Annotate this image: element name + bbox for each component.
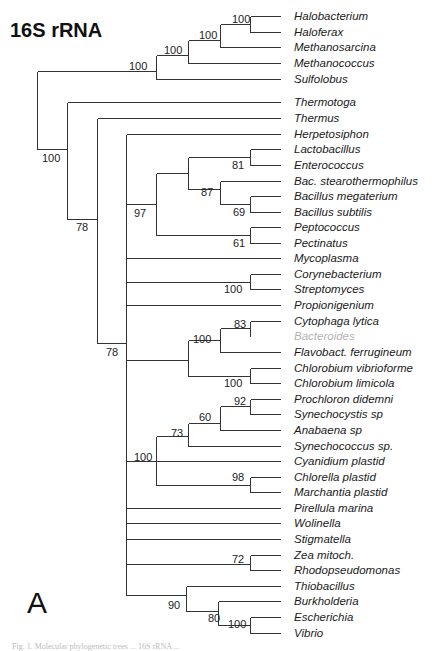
tip-label: Stigmatella — [294, 533, 351, 545]
bootstrap-value: 90 — [168, 599, 180, 611]
tip-label: Chlorobium vibrioforme — [294, 362, 413, 374]
tip-label: Escherichia — [294, 611, 353, 623]
tip-label: Bacillus subtilis — [294, 206, 372, 218]
bootstrap-value: 100 — [164, 44, 182, 56]
figure-caption-partial: Fig. 1. Molecular phylogenetic trees ...… — [12, 642, 180, 651]
bootstrap-value: 100 — [134, 451, 152, 463]
bootstrap-value: 100 — [224, 377, 242, 389]
tip-label: Mycoplasma — [294, 252, 359, 264]
bootstrap-value: 100 — [228, 618, 246, 630]
tip-label: Sulfolobus — [294, 73, 348, 85]
tip-label: Bacteroides — [294, 330, 355, 342]
bootstrap-value: 100 — [199, 29, 217, 41]
tip-label: Rhodopseudomonas — [294, 564, 400, 576]
bootstrap-value: 92 — [234, 395, 246, 407]
bootstrap-value: 60 — [199, 411, 211, 423]
tip-label: Haloferax — [294, 26, 344, 38]
tip-label: Enterococcus — [294, 159, 364, 171]
bootstrap-value: 100 — [129, 60, 147, 72]
tip-label: Bac. stearothermophilus — [294, 175, 418, 187]
support-values: 1001001001001007881876997611007883100100… — [42, 13, 250, 630]
bootstrap-value: 83 — [234, 318, 246, 330]
bootstrap-value: 98 — [232, 471, 244, 483]
tip-label: Corynebacterium — [294, 268, 382, 280]
tip-label: Vibrio — [294, 627, 324, 639]
bootstrap-value: 61 — [233, 237, 245, 249]
panel-label: A — [27, 586, 47, 620]
tip-label: Marchantia plastid — [294, 486, 388, 498]
tip-label: Halobacterium — [294, 10, 369, 22]
phylogenetic-tree-figure: 16S rRNA 1001001001001007881876997611007… — [0, 0, 434, 651]
bootstrap-value: 72 — [232, 553, 244, 565]
tip-label: Cytophaga lytica — [294, 315, 379, 327]
tip-label: Propionigenium — [294, 299, 374, 311]
tip-label: Synechocystis sp — [294, 408, 383, 420]
tip-labels: HalobacteriumHaloferaxMethanosarcinaMeth… — [293, 10, 418, 639]
tip-label: Synechococcus sp. — [294, 440, 393, 452]
tip-label: Zea mitoch. — [293, 549, 354, 561]
tip-label: Methanosarcina — [294, 41, 376, 53]
tip-label: Prochloron didemni — [294, 393, 394, 405]
tip-label: Pirellula marina — [294, 502, 373, 514]
tip-label: Flavobact. ferrugineum — [294, 346, 412, 358]
bootstrap-value: 87 — [201, 186, 213, 198]
tip-label: Methanococcus — [294, 57, 375, 69]
bootstrap-value: 78 — [76, 221, 88, 233]
tip-label: Thermotoga — [294, 96, 356, 108]
tip-label: Thermus — [294, 112, 340, 124]
tip-label: Streptomyces — [294, 283, 365, 295]
tip-label: Thiobacillus — [294, 580, 355, 592]
bootstrap-value: 100 — [193, 333, 211, 345]
bootstrap-value: 100 — [224, 283, 242, 295]
tip-label: Pectinatus — [294, 237, 348, 249]
tip-label: Herpetosiphon — [294, 128, 369, 140]
bootstrap-value: 73 — [171, 427, 183, 439]
bootstrap-value: 69 — [233, 206, 245, 218]
tip-label: Anabaena sp — [293, 424, 362, 436]
bootstrap-value: 81 — [232, 159, 244, 171]
tip-label: Chlorella plastid — [294, 471, 376, 483]
tip-label: Peptococcus — [294, 221, 360, 233]
bootstrap-value: 97 — [134, 207, 146, 219]
bootstrap-value: 78 — [106, 346, 118, 358]
tip-label: Bacillus megaterium — [294, 190, 398, 202]
tree-diagram: 1001001001001007881876997611007883100100… — [0, 0, 434, 651]
bootstrap-value: 100 — [232, 13, 250, 25]
tip-label: Lactobacillus — [294, 143, 361, 155]
tip-label: Chlorobium limicola — [294, 377, 394, 389]
tip-label: Cyanidium plastid — [294, 455, 385, 467]
tip-label: Wolinella — [294, 517, 341, 529]
tip-label: Burkholderia — [294, 595, 359, 607]
bootstrap-value: 80 — [208, 612, 220, 624]
bootstrap-value: 100 — [42, 152, 60, 164]
